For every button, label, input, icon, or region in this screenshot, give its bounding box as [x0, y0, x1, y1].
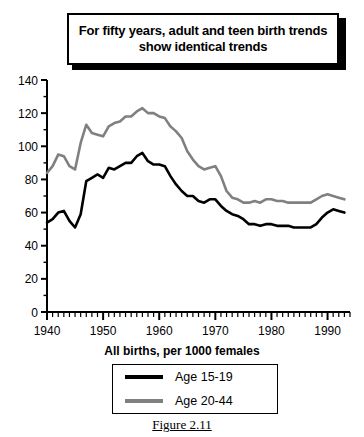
legend-swatch-age-20-44: [125, 399, 163, 403]
legend-swatch-age-15-19: [125, 375, 163, 379]
svg-text:1940: 1940: [34, 324, 61, 338]
x-axis: 194019501960197019801990: [34, 312, 350, 338]
chart-title-box: For fifty years, adult and teen birth tr…: [67, 13, 339, 65]
data-series-group: [47, 108, 344, 227]
legend-label-age-20-44: Age 20-44: [175, 394, 233, 408]
series-line-age-20-44: [47, 108, 344, 202]
legend-item-age-15-19: Age 15-19: [113, 365, 277, 389]
chart-plot-area: 020406080100120140 194019501960197019801…: [0, 62, 364, 340]
svg-text:1990: 1990: [314, 324, 341, 338]
svg-text:1950: 1950: [90, 324, 117, 338]
svg-text:1970: 1970: [202, 324, 229, 338]
svg-text:140: 140: [18, 74, 38, 88]
svg-text:40: 40: [25, 239, 39, 253]
figure-caption: Figure 2.11: [0, 417, 364, 433]
svg-text:0: 0: [31, 306, 38, 320]
svg-text:1980: 1980: [258, 324, 285, 338]
legend-label-age-15-19: Age 15-19: [175, 370, 233, 384]
svg-text:120: 120: [18, 107, 38, 121]
svg-text:20: 20: [25, 272, 39, 286]
chart-title: For fifty years, adult and teen birth tr…: [69, 23, 337, 56]
y-axis: 020406080100120140: [18, 74, 47, 320]
legend-heading: All births, per 1000 females: [0, 344, 364, 358]
svg-text:60: 60: [25, 206, 39, 220]
svg-text:1960: 1960: [146, 324, 173, 338]
svg-text:100: 100: [18, 140, 38, 154]
svg-text:80: 80: [25, 173, 39, 187]
line-chart-svg: 020406080100120140 194019501960197019801…: [0, 62, 364, 340]
legend-item-age-20-44: Age 20-44: [113, 389, 277, 413]
chart-legend: Age 15-19 Age 20-44: [112, 364, 278, 414]
